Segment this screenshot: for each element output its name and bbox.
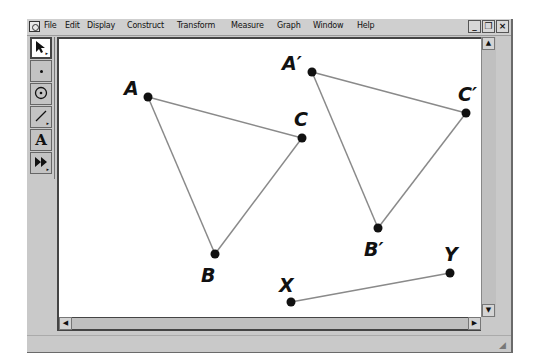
menu-display[interactable]: Display	[87, 21, 115, 30]
compass-icon	[34, 86, 48, 103]
compass-tool[interactable]	[30, 83, 52, 105]
menu-edit[interactable]: Edit	[65, 21, 80, 30]
point-label[interactable]: B	[201, 264, 215, 286]
point-label[interactable]: A	[122, 77, 139, 99]
point-B[interactable]	[211, 250, 220, 259]
segment-BC[interactable]	[215, 138, 302, 254]
custom-tool[interactable]: ▸	[30, 152, 52, 174]
sketch-canvas[interactable]: ABCA′B′C′XY	[57, 37, 495, 317]
point-label[interactable]: C	[294, 108, 308, 130]
minimize-button[interactable]: _	[468, 20, 481, 33]
segment-C′A′[interactable]	[312, 72, 466, 113]
window-controls: _ ❐ ×	[468, 20, 509, 33]
scroll-left-button[interactable]: ◀	[59, 317, 72, 330]
point-C′[interactable]	[462, 109, 471, 118]
vertical-scrollbar[interactable]: ▲ ▼	[481, 37, 496, 317]
scroll-up-button[interactable]: ▲	[482, 37, 495, 50]
sketchpad-window: File Edit Display Construct Transform Me…	[27, 19, 513, 353]
toolbox: ▸ ▸ A ▸	[30, 37, 55, 179]
point-label[interactable]: Y	[444, 243, 460, 265]
segment-CA[interactable]	[148, 97, 302, 138]
straightedge-tool[interactable]: ▸	[30, 106, 52, 128]
menu-window[interactable]: Window	[313, 21, 343, 30]
submenu-indicator-icon: ▸	[46, 120, 49, 126]
horizontal-scrollbar[interactable]: ◀ ▶	[57, 317, 481, 331]
menu-construct[interactable]: Construct	[127, 21, 164, 30]
point-label[interactable]: X	[278, 274, 295, 296]
text-icon: A	[35, 131, 47, 149]
segment-A′B′[interactable]	[312, 72, 378, 228]
menu-bar: File Edit Display Construct Transform Me…	[27, 19, 511, 36]
point-A[interactable]	[144, 93, 153, 102]
segment-AB[interactable]	[148, 97, 215, 254]
point-B′[interactable]	[374, 224, 383, 233]
geometry-drawing[interactable]: ABCA′B′C′XY	[59, 39, 495, 317]
submenu-indicator-icon: ▸	[46, 166, 49, 172]
point-label[interactable]: B′	[364, 238, 384, 260]
status-bar: ◢	[27, 335, 511, 352]
restore-button[interactable]: ❐	[482, 20, 495, 33]
segment-B′C′[interactable]	[378, 113, 466, 228]
menu-help[interactable]: Help	[357, 21, 374, 30]
arrow-tool[interactable]: ▸	[30, 37, 52, 59]
close-button[interactable]: ×	[496, 20, 509, 33]
point-tool[interactable]	[30, 60, 52, 82]
menu-file[interactable]: File	[44, 21, 57, 30]
point-label[interactable]: A′	[280, 52, 302, 74]
point-icon	[40, 70, 43, 73]
text-tool[interactable]: A	[30, 129, 52, 151]
resize-grip-icon[interactable]: ◢	[499, 340, 509, 350]
point-A′[interactable]	[308, 68, 317, 77]
scroll-right-button[interactable]: ▶	[468, 317, 481, 330]
menu-transform[interactable]: Transform	[177, 21, 215, 30]
point-C[interactable]	[298, 134, 307, 143]
menu-measure[interactable]: Measure	[231, 21, 264, 30]
segment-XY[interactable]	[291, 273, 450, 302]
app-icon[interactable]	[29, 21, 40, 32]
point-Y[interactable]	[446, 269, 455, 278]
menu-graph[interactable]: Graph	[277, 21, 301, 30]
scroll-down-button[interactable]: ▼	[482, 304, 495, 317]
point-X[interactable]	[287, 298, 296, 307]
point-label[interactable]: C′	[458, 83, 477, 105]
submenu-indicator-icon: ▸	[45, 50, 48, 56]
